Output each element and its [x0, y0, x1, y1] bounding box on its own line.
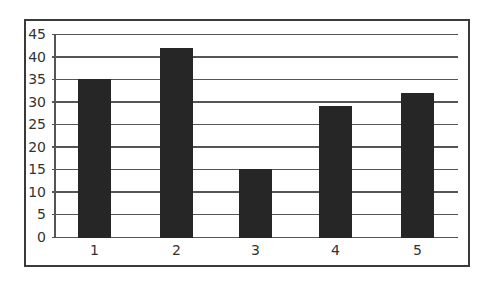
x-tick-label: 3	[239, 242, 273, 258]
bar-5	[401, 93, 434, 238]
x-tick-label: 2	[160, 242, 194, 258]
y-tick-label: 45	[24, 27, 46, 41]
bar-2	[160, 48, 193, 238]
y-tick-label: 30	[24, 95, 46, 109]
y-tick-label: 25	[24, 117, 46, 131]
y-tick-label: 20	[24, 140, 46, 154]
y-tick-label: 40	[24, 50, 46, 64]
x-tick-label: 1	[78, 242, 112, 258]
y-tick-label: 15	[24, 162, 46, 176]
bar-3	[239, 169, 272, 238]
bar-4	[319, 106, 352, 238]
y-axis-line	[54, 34, 56, 237]
gridline	[52, 56, 458, 58]
bar-chart: 05101520253035404512345	[0, 0, 491, 282]
gridline	[52, 79, 458, 81]
x-tick-label: 4	[319, 242, 353, 258]
y-tick-label: 0	[24, 230, 46, 244]
x-tick-label: 5	[401, 242, 435, 258]
gridline	[52, 34, 458, 36]
gridline	[52, 146, 458, 148]
y-tick-label: 5	[24, 207, 46, 221]
bar-1	[78, 79, 111, 238]
y-tick-label: 10	[24, 185, 46, 199]
y-tick-label: 35	[24, 72, 46, 86]
gridline	[52, 124, 458, 126]
gridline	[52, 101, 458, 103]
